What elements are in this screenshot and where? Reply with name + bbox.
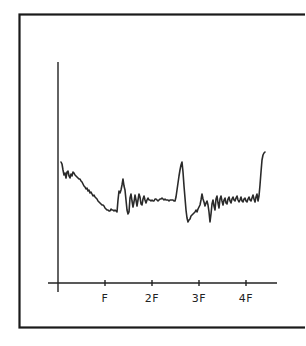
- figure-frame: [20, 15, 306, 328]
- tick-label-3F: 3F: [192, 292, 206, 305]
- tick-label-F: F: [102, 292, 109, 305]
- tick-label-2F: 2F: [145, 292, 159, 305]
- spectrum-line: [61, 152, 265, 222]
- tick-label-4F: 4F: [239, 292, 253, 305]
- spectrum-figure: F 2F 3F 4F: [0, 0, 305, 346]
